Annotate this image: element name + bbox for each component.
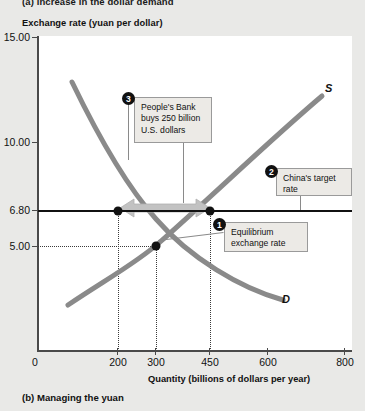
callout-2-leader-down — [300, 196, 301, 210]
callout-2-badge: 2 — [265, 165, 278, 178]
x-tick-800 — [344, 348, 345, 355]
x-tick-300 — [155, 348, 156, 355]
equilibrium-point — [152, 242, 161, 251]
callout-1-box: Equilibrium exchange rate — [224, 222, 308, 252]
x-tick-label-450: 450 — [201, 356, 219, 368]
x-axis-title: Quantity (billions of dollars per year) — [148, 374, 310, 384]
x-tick-label-300: 300 — [147, 356, 165, 368]
y-tick-10 — [32, 142, 39, 143]
china-target-rate-line — [38, 210, 352, 212]
y-tick-label-15: 15.00 — [4, 31, 30, 43]
quantity-demanded-point — [206, 207, 215, 216]
demand-curve-label: D — [282, 293, 290, 305]
x-tick-600 — [267, 348, 268, 355]
y-axis-title: Exchange rate (yuan per dollar) — [22, 18, 163, 28]
supply-curve-label: S — [325, 82, 332, 94]
figure-panel: (a) increase in the dollar demand Exchan… — [0, 0, 365, 411]
x-tick-label-200: 200 — [109, 356, 127, 368]
x-tick-label-600: 600 — [259, 356, 277, 368]
quantity-supplied-point — [114, 207, 123, 216]
x-tick-label-800: 800 — [336, 356, 354, 368]
y-tick-label-10: 10.00 — [4, 136, 30, 148]
callout-1-badge: 1 — [213, 218, 226, 231]
x-axis-line — [37, 350, 352, 352]
callout-3-badge: 3 — [122, 92, 135, 105]
x-tick-200 — [117, 348, 118, 355]
callout-3-leader-down — [183, 143, 184, 203]
q450-dotted-line — [210, 211, 211, 349]
q200-dotted-line — [118, 211, 119, 349]
y-tick-15 — [32, 37, 39, 38]
callout-3-box: People's Bank buys 250 billion U.S. doll… — [134, 97, 212, 143]
x-tick-label-0: 0 — [32, 356, 38, 368]
callout-3-leader-vertical — [128, 100, 129, 160]
equilibrium-rate-dotted-line — [38, 246, 157, 247]
y-tick-label-680: 6.80 — [10, 204, 30, 216]
y-axis-line — [37, 36, 39, 351]
figure-caption: (b) Managing the yuan — [22, 392, 124, 403]
callout-2-box: China's target rate — [276, 168, 352, 196]
clipped-header-text: (a) increase in the dollar demand — [22, 0, 342, 8]
q300-dotted-line — [156, 246, 157, 349]
x-tick-450 — [209, 348, 210, 355]
y-tick-label-5: 5.00 — [10, 240, 30, 252]
